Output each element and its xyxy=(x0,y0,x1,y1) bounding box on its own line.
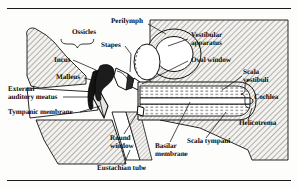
label-scala-vestibuli: Scala vestibuli xyxy=(243,68,269,84)
label-vestibular-apparatus: Vestibular apparatus xyxy=(191,31,222,47)
ossicles-brace xyxy=(61,39,94,48)
leader-stapes xyxy=(125,46,131,72)
scala-tympani-duct xyxy=(140,104,250,116)
vestibule-chamber xyxy=(134,44,160,80)
label-ossicles: Ossicles xyxy=(72,28,96,36)
label-malleus: Malleus xyxy=(56,73,80,81)
label-eustachian-tube: Eustachian tube xyxy=(97,164,146,172)
label-helicotrema: Helicotrema xyxy=(239,119,276,127)
label-scala-tympani: Scala tympani xyxy=(187,137,230,145)
label-external-auditory-meatus: External auditory meatus xyxy=(8,85,57,101)
round-window xyxy=(137,106,144,116)
scala-vestibuli-duct xyxy=(140,86,250,98)
basilar-membrane-partition xyxy=(140,98,250,104)
label-oval-window: Oval window xyxy=(191,56,231,64)
label-round-window: Round window xyxy=(110,134,134,150)
label-perilymph: Perilymph xyxy=(111,17,143,25)
label-basilar-membrane: Basilar membrane xyxy=(155,142,188,158)
ear-anatomy-figure: Ossicles Perilymph Stapes Incus Malleus … xyxy=(0,0,298,188)
label-cochlea: Cochlea xyxy=(254,93,278,101)
label-stapes: Stapes xyxy=(101,41,121,49)
label-tympanic-membrane: Tympanic membrane xyxy=(8,108,73,116)
semicircular-canal-lumen xyxy=(155,37,193,72)
label-incus: Incus xyxy=(54,56,71,64)
